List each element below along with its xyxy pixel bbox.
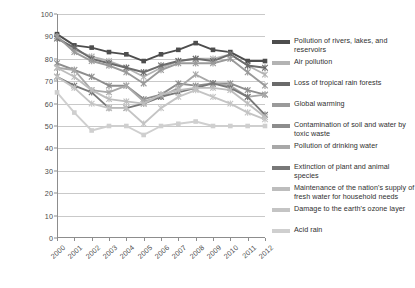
series-line	[57, 36, 265, 85]
data-point	[141, 59, 146, 64]
legend-item-label: Damage to the earth's ozone layer	[294, 204, 405, 213]
data-point	[245, 100, 251, 106]
legend-item-label: Acid rain	[294, 225, 322, 234]
data-point	[263, 124, 268, 129]
y-tick-label-60: 60	[45, 99, 53, 108]
x-tick-label-2007: 2007	[170, 243, 188, 261]
plot-area: 0102030405060708090100 20002001200220032…	[57, 14, 265, 238]
y-tick-label-50: 50	[45, 122, 53, 131]
legend-item[interactable]: Acid rain	[272, 225, 415, 243]
data-point	[89, 128, 94, 133]
y-tick-label-80: 80	[45, 54, 53, 63]
data-point	[158, 105, 164, 111]
data-point	[141, 80, 147, 86]
legend-swatch-icon	[272, 61, 290, 65]
data-point	[245, 69, 251, 75]
data-point	[124, 52, 129, 57]
x-tick-label-2001: 2001	[66, 243, 84, 261]
x-tick-label-2004: 2004	[118, 243, 136, 261]
data-point	[107, 50, 112, 55]
legend-item-label: Maintenance of the nation's supply of fr…	[294, 183, 415, 201]
series-lines	[57, 14, 265, 238]
data-point	[228, 124, 233, 129]
legend-swatch-icon	[272, 145, 290, 149]
x-tick-mark-2006	[161, 238, 162, 241]
data-point	[176, 48, 181, 53]
legend-swatch-icon	[272, 82, 290, 86]
data-point	[176, 121, 181, 126]
data-point	[193, 119, 198, 124]
data-point	[211, 124, 216, 129]
legend-item[interactable]: Pollution of drinking water	[272, 141, 415, 159]
series-3	[54, 33, 268, 89]
y-tick-label-0: 0	[49, 234, 53, 243]
x-tick-label-2005: 2005	[135, 243, 153, 261]
data-point	[141, 133, 146, 138]
data-point	[89, 45, 94, 50]
legend-item[interactable]: Extinction of plant and animal species	[272, 162, 415, 180]
legend-item-label: Global warming	[294, 99, 345, 108]
x-tick-mark-2002	[92, 238, 93, 241]
data-point	[211, 48, 216, 53]
x-tick-mark-2007	[178, 238, 179, 241]
x-tick-label-2008: 2008	[187, 243, 205, 261]
data-point	[55, 90, 60, 95]
x-tick-mark-2012	[265, 238, 266, 241]
legend-swatch-icon	[272, 40, 290, 44]
x-tick-label-2011: 2011	[240, 243, 258, 260]
data-point	[124, 124, 129, 129]
legend-item[interactable]: Pollution of rivers, lakes, and reservoi…	[272, 36, 415, 54]
x-tick-label-2009: 2009	[205, 243, 223, 261]
legend-item-label: Contamination of soil and water by toxic…	[294, 120, 415, 138]
x-tick-mark-2008	[196, 238, 197, 241]
x-tick-label-2010: 2010	[222, 243, 240, 261]
legend-item-label: Pollution of drinking water	[294, 141, 378, 150]
chart-legend: Pollution of rivers, lakes, and reservoi…	[272, 36, 415, 246]
x-tick-mark-2001	[74, 238, 75, 241]
x-tick-mark-2004	[126, 238, 127, 241]
series-8	[54, 74, 268, 127]
legend-item[interactable]: Maintenance of the nation's supply of fr…	[272, 183, 415, 201]
x-tick-label-2006: 2006	[153, 243, 171, 261]
data-point	[159, 124, 164, 129]
x-tick-mark-2011	[248, 238, 249, 241]
legend-item-label: Loss of tropical rain forests	[294, 78, 381, 87]
legend-item[interactable]: Air pollution	[272, 57, 415, 75]
x-tick-mark-2005	[144, 238, 145, 241]
legend-item[interactable]: Loss of tropical rain forests	[272, 78, 415, 96]
legend-swatch-icon	[272, 124, 290, 128]
x-tick-label-2000: 2000	[49, 243, 67, 261]
data-point	[245, 124, 250, 129]
y-tick-label-20: 20	[45, 189, 53, 198]
data-point	[107, 124, 112, 129]
x-tick-mark-2000	[57, 238, 58, 241]
y-tick-label-100: 100	[41, 10, 53, 19]
data-point	[193, 41, 198, 46]
legend-item-label: Pollution of rivers, lakes, and reservoi…	[294, 36, 415, 54]
x-tick-mark-2009	[213, 238, 214, 241]
data-point	[159, 52, 164, 57]
x-tick-label-2002: 2002	[83, 243, 101, 261]
y-tick-label-10: 10	[45, 211, 53, 220]
legend-item-label: Extinction of plant and animal species	[294, 162, 415, 180]
y-tick-label-90: 90	[45, 32, 53, 41]
data-point	[263, 59, 268, 64]
x-tick-label-2003: 2003	[101, 243, 119, 261]
legend-swatch-icon	[272, 229, 290, 233]
legend-swatch-icon	[272, 208, 290, 212]
x-tick-mark-2010	[230, 238, 231, 241]
x-tick-mark-2003	[109, 238, 110, 241]
data-point	[141, 121, 147, 127]
y-tick-label-30: 30	[45, 166, 53, 175]
legend-item[interactable]: Damage to the earth's ozone layer	[272, 204, 415, 222]
legend-swatch-icon	[272, 103, 290, 107]
data-point	[72, 110, 77, 115]
y-tick-label-40: 40	[45, 144, 53, 153]
legend-item[interactable]: Global warming	[272, 99, 415, 117]
data-point	[262, 82, 268, 88]
legend-item-label: Air pollution	[294, 57, 332, 66]
environmental-concern-line-chart: 0102030405060708090100 20002001200220032…	[0, 0, 415, 288]
legend-swatch-icon	[272, 187, 290, 191]
y-tick-label-70: 70	[45, 77, 53, 86]
legend-item[interactable]: Contamination of soil and water by toxic…	[272, 120, 415, 138]
